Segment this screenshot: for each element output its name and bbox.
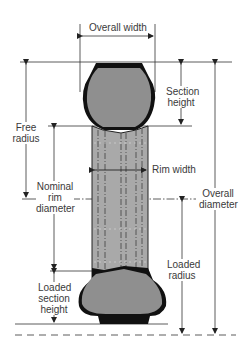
nominal-rim-diameter-text-3: diameter <box>36 203 74 214</box>
rim-width-text: Rim width <box>152 164 196 175</box>
free-radius-text-1: Free <box>12 122 40 133</box>
free-radius-label: Free radius <box>12 122 40 144</box>
overall-width-text: Overall width <box>89 22 147 33</box>
overall-diameter-text-1: Overall <box>199 188 237 199</box>
section-height-label: Section height <box>166 86 196 108</box>
overall-diameter-label: Overall diameter <box>199 188 237 210</box>
loaded-section-height-text-1: Loaded <box>38 282 70 293</box>
loaded-section-height-label: Loaded section height <box>38 282 70 315</box>
section-height-text-1: Section <box>166 86 196 97</box>
tire-top-section <box>83 63 155 130</box>
tire-dimension-diagram: Overall width Section height Free radius… <box>0 0 248 354</box>
free-radius-text-2: radius <box>12 133 40 144</box>
nominal-rim-diameter-label: Nominal rim diameter <box>36 181 74 214</box>
rim-width-label: Rim width <box>152 164 196 175</box>
section-height-text-2: height <box>166 97 196 108</box>
loaded-radius-label: Loaded radius <box>167 259 197 281</box>
loaded-section-height-text-2: section <box>38 293 70 304</box>
nominal-rim-diameter-text-2: rim <box>36 192 74 203</box>
loaded-radius-text-2: radius <box>167 270 197 281</box>
loaded-section-height-text-3: height <box>38 304 70 315</box>
overall-width-label: Overall width <box>89 22 147 33</box>
overall-diameter-text-2: diameter <box>199 199 237 210</box>
loaded-radius-text-1: Loaded <box>167 259 197 270</box>
nominal-rim-diameter-text-1: Nominal <box>36 181 74 192</box>
